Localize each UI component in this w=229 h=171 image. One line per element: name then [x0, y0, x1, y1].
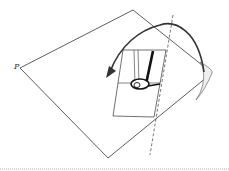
paper-sheet [20, 10, 212, 158]
origami-diagram [0, 0, 229, 171]
corner-label-p: P [14, 62, 19, 71]
